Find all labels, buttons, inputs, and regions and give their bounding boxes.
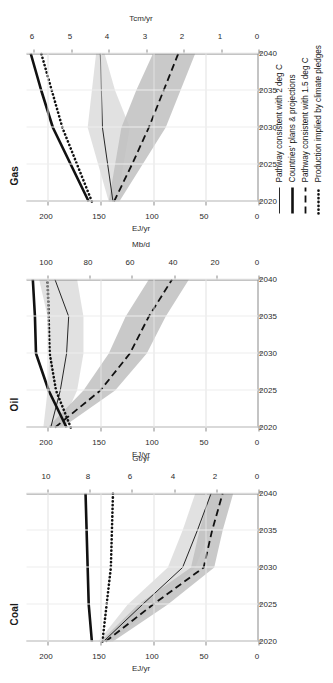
legend-swatch-thick-solid-icon [287, 187, 297, 213]
x-tick-label: 2020 [255, 637, 281, 646]
legend-swatch-thin-solid-icon [274, 187, 284, 213]
y2-axis-title: Tcm/yr [126, 14, 156, 23]
y2-tick-label: 8 [77, 472, 99, 481]
x-tick-label: 2035 [255, 312, 281, 321]
plot-area-oil: 0501001502000204060801002020202520302035… [26, 279, 258, 427]
legend-item: Countries' plans & projections [285, 3, 298, 213]
y2-tick-label: 4 [96, 32, 118, 41]
y2-tick-label: 6 [21, 32, 43, 41]
y2-tick-label: 2 [171, 32, 193, 41]
y2-tick-label: 3 [133, 32, 155, 41]
y-tick-label: 50 [193, 652, 215, 661]
y2-tick-label: 20 [203, 258, 225, 267]
y-tick-label: 200 [35, 438, 57, 447]
y2-tick-label: 60 [119, 258, 141, 267]
y-axis-title: EJ/yr [128, 664, 154, 673]
x-tick-label: 2030 [255, 563, 281, 572]
figure-canvas: Coal 05010015020002468102020202520302035… [0, 0, 333, 683]
legend-swatch-dashed-icon [300, 187, 310, 213]
y2-tick-label: 100 [35, 258, 57, 267]
x-tick-label: 2030 [255, 349, 281, 358]
panel-title-oil: Oil [8, 397, 19, 411]
y-tick-label: 200 [35, 212, 57, 221]
x-tick-label: 2025 [255, 600, 281, 609]
y2-tick-label: 40 [161, 258, 183, 267]
y2-tick-label: 10 [35, 472, 57, 481]
legend-item: Pathway consistent with 2 deg C [272, 3, 285, 213]
x-tick-label: 2035 [255, 526, 281, 535]
legend-label: Countries' plans & projections [287, 74, 296, 182]
fossil-fuel-production-figure: Coal 05010015020002468102020202520302035… [0, 0, 333, 683]
y2-tick-label: 1 [208, 32, 230, 41]
x-tick-label: 2025 [255, 386, 281, 395]
plot-area-coal: 050100150200024681020202025203020352040E… [26, 493, 258, 641]
y-tick-label: 0 [246, 652, 268, 661]
y2-tick-label: 0 [246, 32, 268, 41]
chart-legend: Pathway consistent with 2 deg CCountries… [272, 3, 324, 213]
y2-tick-label: 80 [77, 258, 99, 267]
x-tick-label: 2040 [255, 275, 281, 284]
panel-title-coal: Coal [8, 603, 19, 625]
y-tick-label: 50 [193, 212, 215, 221]
y-tick-label: 150 [87, 652, 109, 661]
legend-label: Production implied by climate pledges [313, 45, 322, 182]
panel-oil: Oil 050100150200020406080100202020252030… [0, 261, 333, 469]
x-tick-label: 2040 [255, 489, 281, 498]
y-tick-label: 150 [87, 212, 109, 221]
x-tick-label: 2020 [255, 423, 281, 432]
y-axis-title: EJ/yr [128, 224, 154, 233]
panel-title-gas: Gas [8, 165, 19, 185]
panel-coal: Coal 05010015020002468102020202520302035… [0, 475, 333, 683]
legend-swatch-dotted-icon [313, 187, 323, 213]
y-tick-label: 100 [140, 438, 162, 447]
y-tick-label: 150 [87, 438, 109, 447]
y-tick-label: 200 [35, 652, 57, 661]
legend-label: Pathway consistent with 2 deg C [274, 64, 283, 182]
y-tick-label: 0 [246, 212, 268, 221]
y-tick-label: 100 [140, 212, 162, 221]
y-tick-label: 50 [193, 438, 215, 447]
legend-item: Pathway consistent with 1.5 deg C [298, 3, 311, 213]
y2-tick-label: 5 [58, 32, 80, 41]
y-tick-label: 100 [140, 652, 162, 661]
y-tick-label: 0 [246, 438, 268, 447]
legend-label: Pathway consistent with 1.5 deg C [300, 57, 309, 182]
y2-tick-label: 2 [203, 472, 225, 481]
y2-tick-label: 6 [119, 472, 141, 481]
legend-item: Production implied by climate pledges [311, 3, 324, 213]
y2-tick-label: 4 [161, 472, 183, 481]
y-axis-title: EJ/yr [128, 450, 154, 459]
y2-tick-label: 0 [246, 472, 268, 481]
y2-tick-label: 0 [246, 258, 268, 267]
plot-area-gas: 050100150200012345620202025203020352040E… [26, 53, 258, 201]
